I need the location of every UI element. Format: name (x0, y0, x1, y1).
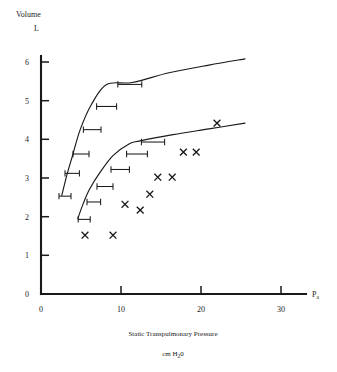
x-tick-label-30: 30 (277, 305, 285, 314)
chart-container: Volume L 6 5 4 3 2 1 0 (0, 0, 337, 372)
y-axis-units: L (34, 24, 39, 33)
data-point-x-marker (180, 149, 187, 156)
error-bar (97, 103, 117, 109)
data-point-x-marker (146, 191, 153, 198)
data-point-x-marker (82, 232, 89, 239)
series-error-bars-lower (78, 139, 164, 223)
y-tick-label-0: 0 (25, 290, 29, 299)
data-point-x-marker (122, 201, 129, 208)
x-axis-end-label-subscript: a (316, 294, 319, 300)
error-bar (127, 151, 148, 157)
error-bar (73, 151, 89, 157)
error-bar (118, 81, 142, 87)
y-tick-label-3: 3 (25, 174, 29, 183)
y-tick-label-4: 4 (25, 135, 29, 144)
y-axis-tick-labels: 6 5 4 3 2 1 0 (25, 58, 29, 299)
data-point-x-marker (110, 232, 117, 239)
x-tick-label-20: 20 (197, 305, 205, 314)
y-tick-label-5: 5 (25, 97, 29, 106)
error-bar (59, 193, 71, 199)
x-axis-end-label: Pa (312, 290, 319, 300)
error-bar (111, 166, 129, 172)
y-tick-label-1: 1 (25, 251, 29, 260)
data-point-x-marker (137, 207, 144, 214)
data-point-x-marker (154, 174, 161, 181)
curve-lower-curve (78, 123, 245, 219)
error-bar (83, 126, 101, 132)
x-tick-label-10: 10 (117, 305, 125, 314)
x-axis-units: cm H20 (162, 350, 184, 359)
x-axis-tick-labels: 0 10 20 30 (39, 305, 285, 314)
data-point-x-marker (169, 174, 176, 181)
error-bar (78, 216, 90, 222)
x-tick-label-0: 0 (39, 305, 43, 314)
data-point-x-marker (193, 149, 200, 156)
y-tick-label-2: 2 (25, 213, 29, 222)
y-axis-ticks (41, 62, 49, 255)
series-error-bars-upper (59, 81, 142, 199)
x-axis-units-tail: 0 (180, 350, 184, 358)
error-bar (97, 183, 113, 189)
chart-data-layer (59, 59, 245, 239)
x-axis-ticks (121, 286, 281, 294)
y-axis-title: Volume (16, 10, 41, 19)
x-axis-title: Static Transpulmonary Pressure (128, 330, 217, 338)
error-bar (87, 199, 101, 205)
y-tick-label-6: 6 (25, 58, 29, 67)
series-lower-curve (78, 123, 245, 219)
series-measured-points (82, 120, 221, 239)
data-point-x-marker (214, 120, 221, 127)
x-axis-units-main: cm H (162, 350, 177, 358)
pressure-volume-chart: Volume L 6 5 4 3 2 1 0 (0, 0, 337, 372)
